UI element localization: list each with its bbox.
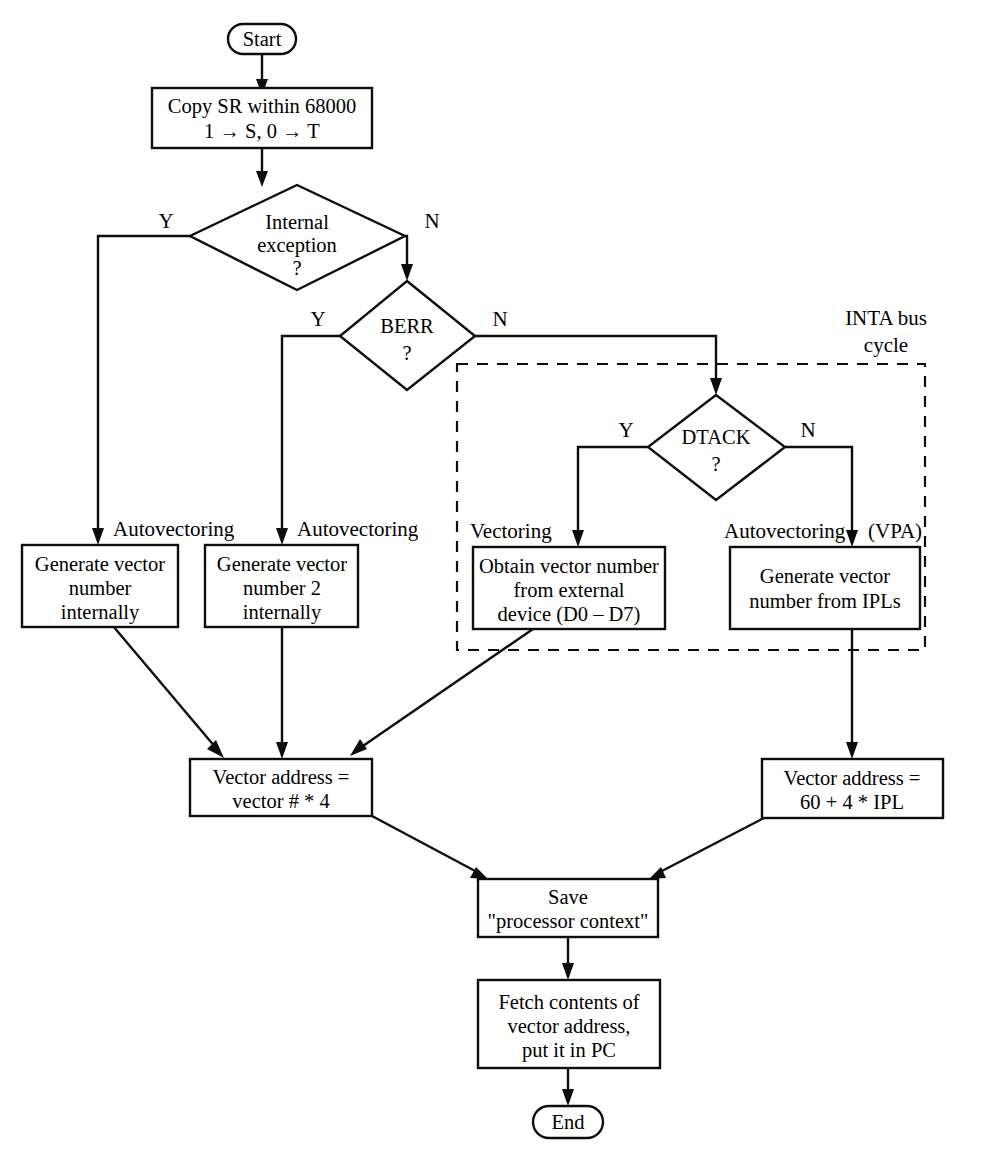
obtain-vec-line2: from external xyxy=(514,579,625,601)
arrowhead-berr-no xyxy=(710,378,722,395)
node-start[interactable]: Start xyxy=(228,24,296,54)
fetch-line1: Fetch contents of xyxy=(498,991,639,1013)
arrowhead-internal-no xyxy=(401,264,413,281)
gen-vec-ipl-line1: Generate vector xyxy=(760,565,890,587)
fetch-line2: vector address, xyxy=(508,1015,631,1037)
arrowhead-internal-yes xyxy=(92,528,104,545)
edge-label-vectoring: Vectoring xyxy=(470,519,552,543)
edge-vecaddr-to-save xyxy=(372,816,477,872)
edge-internal-yes xyxy=(98,236,190,532)
edge-berr-no xyxy=(475,336,716,382)
gen-vec-2-line3: internally xyxy=(243,601,322,624)
arrowhead-obtainvec-to-vecaddr xyxy=(350,739,367,756)
flowchart-svg: INTA bus cycle xyxy=(0,0,1003,1161)
arrowhead-copysr-to-internal xyxy=(256,171,268,187)
branch-label-internal-no: N xyxy=(424,209,439,233)
start-label: Start xyxy=(243,28,282,50)
edge-internal-no xyxy=(405,236,407,268)
arrowhead-dtack-no xyxy=(846,530,858,547)
arrowhead-genvec2-to-vecaddr xyxy=(276,742,288,759)
vec-addr-ipl-line1: Vector address = xyxy=(784,767,921,789)
node-end[interactable]: End xyxy=(533,1106,603,1138)
save-line2: "processor context" xyxy=(488,910,649,933)
gen-vec-2-line2: number 2 xyxy=(243,577,321,599)
branch-label-berr-no: N xyxy=(492,307,507,331)
edge-label-autovectoring-mid: Autovectoring xyxy=(297,517,419,541)
dtack-line1: DTACK xyxy=(682,426,751,448)
arrowhead-fetch-to-end xyxy=(562,1089,574,1106)
obtain-vec-line1: Obtain vector number xyxy=(479,555,659,577)
obtain-vec-line3: device (D0 – D7) xyxy=(498,603,641,626)
edge-vecaddripl-to-save xyxy=(660,818,764,872)
flowchart-canvas: INTA bus cycle xyxy=(0,0,1003,1161)
node-obtain-vector-external[interactable]: Obtain vector number from external devic… xyxy=(473,547,665,629)
copy-sr-line1: Copy SR within 68000 xyxy=(168,95,357,118)
node-fetch-contents[interactable]: Fetch contents of vector address, put it… xyxy=(478,980,660,1068)
inta-bus-cycle-label-line1: INTA bus xyxy=(845,306,927,330)
edge-label-autovectoring-right: Autovectoring xyxy=(724,519,846,543)
dtack-line2: ? xyxy=(711,453,720,475)
vec-addr-4-line1: Vector address = xyxy=(213,766,350,788)
edge-berr-yes xyxy=(282,336,340,532)
arrowhead-genvec-to-vecaddr xyxy=(207,740,224,758)
node-dtack[interactable]: DTACK ? xyxy=(648,395,785,500)
branch-label-dtack-no: N xyxy=(800,418,815,442)
branch-label-internal-yes: Y xyxy=(158,209,173,233)
node-copy-sr[interactable]: Copy SR within 68000 1 → S, 0 → T xyxy=(152,88,372,148)
berr-line1: BERR xyxy=(380,315,434,337)
gen-vec-2-line1: Generate vector xyxy=(217,553,347,575)
arrowhead-berr-yes xyxy=(276,528,288,545)
gen-vec-internal-line1: Generate vector xyxy=(35,553,165,575)
node-save-processor-context[interactable]: Save "processor context" xyxy=(478,879,658,937)
edge-label-vpa: (VPA) xyxy=(868,519,922,543)
gen-vec-internal-line2: number xyxy=(69,577,132,599)
copy-sr-line2: 1 → S, 0 → T xyxy=(204,120,320,142)
save-line1: Save xyxy=(548,886,588,908)
node-generate-vector-2-internally[interactable]: Generate vector number 2 internally xyxy=(205,545,358,627)
node-berr[interactable]: BERR ? xyxy=(340,281,475,390)
node-generate-vector-from-ipls[interactable]: Generate vector number from IPLs xyxy=(730,547,920,629)
fetch-line3: put it in PC xyxy=(522,1039,616,1062)
arrowhead-vecaddripl-to-save xyxy=(649,867,666,879)
inta-bus-cycle-label-line2: cycle xyxy=(864,333,908,357)
vec-addr-4-line2: vector # * 4 xyxy=(232,790,329,812)
gen-vec-internal-line3: internally xyxy=(61,601,140,624)
branch-label-dtack-yes: Y xyxy=(618,418,633,442)
arrowhead-save-to-fetch xyxy=(562,963,574,980)
arrowhead-dtack-yes xyxy=(572,530,584,547)
branch-label-berr-yes: Y xyxy=(310,307,325,331)
berr-line2: ? xyxy=(402,342,411,364)
node-vector-address-times-4[interactable]: Vector address = vector # * 4 xyxy=(190,759,372,816)
edge-obtainvec-to-vecaddr xyxy=(360,629,533,748)
arrowhead-genvecipl-to-vecaddripl xyxy=(846,742,858,759)
node-generate-vector-internally[interactable]: Generate vector number internally xyxy=(22,545,178,627)
edge-genvec-to-vecaddr xyxy=(113,626,216,748)
internal-exception-line1: Internal xyxy=(265,211,329,233)
node-internal-exception[interactable]: Internal exception ? xyxy=(190,185,405,290)
end-label: End xyxy=(551,1111,584,1133)
edge-label-autovectoring-left: Autovectoring xyxy=(113,517,235,541)
vec-addr-ipl-line2: 60 + 4 * IPL xyxy=(800,791,904,813)
internal-exception-line3: ? xyxy=(292,257,301,279)
node-vector-address-ipl[interactable]: Vector address = 60 + 4 * IPL xyxy=(762,759,943,818)
generate-vector-from-ipls-box-shape xyxy=(730,547,920,629)
internal-exception-line2: exception xyxy=(257,234,337,257)
edge-dtack-yes xyxy=(578,447,648,534)
gen-vec-ipl-line2: number from IPLs xyxy=(749,590,900,612)
